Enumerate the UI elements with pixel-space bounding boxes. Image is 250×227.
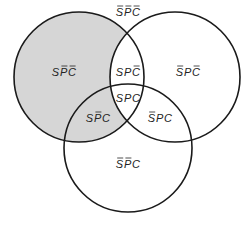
label-letter: S bbox=[116, 158, 124, 170]
label-letter: C bbox=[102, 112, 110, 124]
label-letter: P bbox=[124, 66, 132, 78]
region-label-s-and-c: SPC bbox=[86, 112, 110, 124]
label-letter: C bbox=[132, 92, 140, 104]
region-label-s-and-p: SPC bbox=[116, 66, 140, 78]
region-label-p-and-c: SPC bbox=[148, 112, 172, 124]
label-letter: S bbox=[116, 92, 124, 104]
label-letter: S bbox=[148, 112, 156, 124]
label-letter: P bbox=[124, 92, 132, 104]
label-letter: P bbox=[156, 112, 164, 124]
label-letter: S bbox=[176, 66, 184, 78]
venn-diagram: SPCSPCSPCSPCSPCSPCSPCSPC bbox=[0, 0, 250, 227]
region-label-p-only: SPC bbox=[176, 66, 200, 78]
label-letter: C bbox=[164, 112, 172, 124]
label-letter: C bbox=[192, 66, 200, 78]
region-label-all: SPC bbox=[116, 92, 140, 104]
label-letter: P bbox=[124, 6, 132, 18]
label-letter: S bbox=[86, 112, 94, 124]
label-letter: P bbox=[94, 112, 102, 124]
label-letter: C bbox=[132, 66, 140, 78]
label-letter: P bbox=[60, 66, 68, 78]
label-letter: S bbox=[116, 6, 124, 18]
region-label-c-only: SPC bbox=[116, 158, 140, 170]
region-label-s-only: SPC bbox=[52, 66, 76, 78]
label-letter: C bbox=[132, 158, 140, 170]
label-letter: C bbox=[132, 6, 140, 18]
label-letter: S bbox=[52, 66, 60, 78]
label-letter: C bbox=[68, 66, 76, 78]
label-letter: P bbox=[184, 66, 192, 78]
label-letter: P bbox=[124, 158, 132, 170]
region-label-outside: SPC bbox=[116, 6, 140, 18]
label-letter: S bbox=[116, 66, 124, 78]
